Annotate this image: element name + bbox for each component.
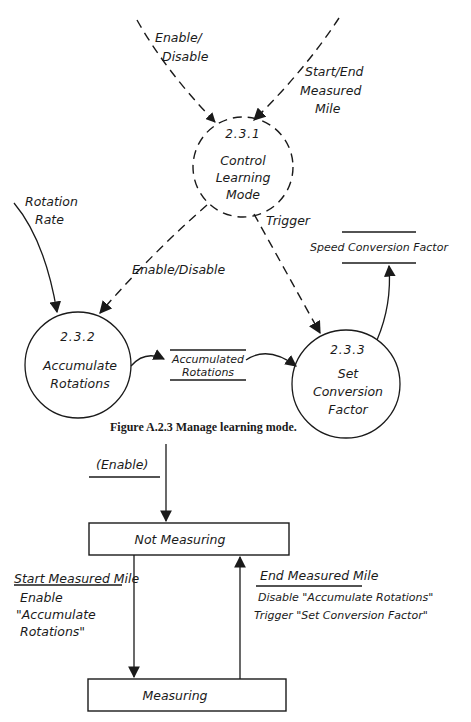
process-2-3-3-name-3: Factor [328,402,368,417]
process-2-3-3: 2.3.3 Set Conversion Factor [292,330,400,438]
flow-to-accumulated-rotations [131,356,164,366]
label-rotation-rate-1: Rotation [25,194,78,209]
store-accumulated-rotations: Accumulated Rotations [170,350,246,380]
label-enable-disable-in-2: Disable [162,49,209,64]
transition-end-action-2: Trigger "Set Conversion Factor" [254,609,428,622]
process-2-3-1-id: 2.3.1 [225,127,261,141]
process-2-3-2-name-1: Accumulate [42,358,117,373]
label-start-end-1: Start/End [305,64,364,79]
store-speed-conversion-factor: Speed Conversion Factor [310,232,449,263]
flow-trigger [254,214,320,333]
transition-start-action-1: Enable [20,590,63,605]
flow-from-accumulated-rotations [246,354,296,366]
process-2-3-3-name-1: Set [338,366,360,381]
label-enable-disable-out: Enable/Disable [132,262,225,277]
state-measuring-label: Measuring [142,688,207,703]
process-2-3-3-id: 2.3.3 [330,343,366,357]
label-rotation-rate-2: Rate [35,212,64,227]
transition-end-condition: End Measured Mile [260,568,379,583]
flow-enable-disable-out [100,205,207,313]
process-2-3-2: 2.3.2 Accumulate Rotations [25,312,131,418]
label-start-end-3: Mile [315,101,341,116]
transition-start-action-2: "Accumulate [16,607,96,622]
transition-end-action-1: Disable "Accumulate Rotations" [258,591,433,604]
process-2-3-1-name-1: Control [220,153,266,168]
process-2-3-2-id: 2.3.2 [60,330,96,344]
figure-caption: Figure A.2.3 Manage learning mode. [110,420,297,434]
store-speed-conversion-factor-label: Speed Conversion Factor [310,241,449,254]
transition-start-condition: Start Measured Mile [14,571,140,586]
process-2-3-2-name-2: Rotations [50,376,110,391]
state-not-measuring-label: Not Measuring [135,532,226,547]
store-accumulated-rotations-1: Accumulated [171,353,245,366]
state-measuring: Measuring [88,679,286,711]
process-2-3-3-name-2: Conversion [313,384,383,399]
process-2-3-1: 2.3.1 Control Learning Mode [193,117,293,217]
process-2-3-1-name-2: Learning [216,170,271,185]
state-not-measuring: Not Measuring [89,523,289,555]
flow-to-speed-conversion-factor [377,266,390,340]
diagram-canvas: Enable/ Disable Start/End Measured Mile … [0,0,471,722]
store-accumulated-rotations-2: Rotations [182,366,234,379]
initial-event-label: (Enable) [96,457,148,472]
label-start-end-2: Measured [300,83,361,98]
label-enable-disable-in-1: Enable/ [155,30,204,45]
transition-start-action-3: Rotations" [20,624,85,639]
process-2-3-1-name-3: Mode [226,187,260,202]
label-trigger: Trigger [266,213,311,228]
